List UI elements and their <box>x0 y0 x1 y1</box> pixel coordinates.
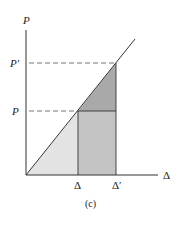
y-tick-p-prime: P′ <box>9 57 20 69</box>
y-axis-label: P <box>22 14 30 26</box>
y-tick-p: P <box>11 105 19 117</box>
x-tick-delta-prime: Δ′ <box>112 179 121 191</box>
x-axis-label: Δ <box>163 169 170 181</box>
x-tick-delta: Δ <box>74 179 81 191</box>
load-deflection-diagram: P Δ P′ P Δ Δ′ (c) <box>0 0 185 229</box>
figure-caption: (c) <box>85 198 96 210</box>
work-rectangle <box>78 111 116 175</box>
